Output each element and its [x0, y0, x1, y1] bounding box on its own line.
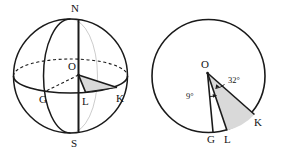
figure-canvas	[0, 0, 287, 157]
sphere-label-north: N	[71, 3, 79, 14]
circle-label-k: K	[254, 117, 262, 128]
circle-angle-label-32deg: 32°	[228, 76, 240, 85]
circle-label-g: G	[207, 134, 215, 145]
circle-center-dot	[206, 72, 209, 75]
sphere-label-l: L	[82, 96, 89, 107]
circle-diagram	[152, 20, 265, 133]
sphere-label-center-o: O	[68, 61, 76, 72]
circle-label-l: L	[224, 134, 231, 145]
circle-label-center-o: O	[201, 59, 209, 70]
sphere-label-south: S	[71, 138, 77, 149]
geometry-figure: N S O G L K O 9° 32° G L K	[0, 0, 287, 157]
sphere-center-dot	[77, 74, 80, 77]
sphere-label-g: G	[39, 94, 47, 105]
sphere-diagram	[14, 19, 128, 133]
circle-angle-label-9deg: 9°	[186, 92, 194, 101]
meridian-arc-left	[44, 19, 71, 133]
sphere-outline	[14, 19, 128, 133]
sphere-label-k: K	[116, 93, 124, 104]
radius-o-g-dashed	[44, 75, 79, 92]
